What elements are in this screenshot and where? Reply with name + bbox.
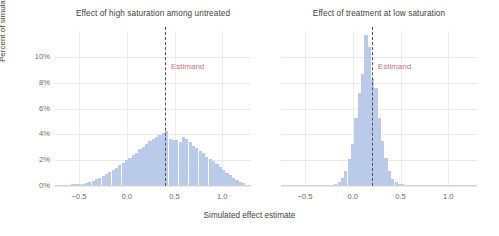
- histogram-bar: [401, 184, 404, 185]
- x-axis-line: [55, 185, 251, 186]
- x-tick-label: −0.5: [297, 192, 312, 201]
- gridline-horizontal: [281, 186, 477, 187]
- y-tick-label: 0%: [20, 181, 50, 190]
- histogram-bar: [242, 183, 245, 185]
- x-tick-label: 1.0: [217, 192, 228, 201]
- y-tick-label: 8%: [20, 78, 50, 87]
- plot-area-1: Estimand: [55, 31, 251, 186]
- estimand-label-1: Estimand: [171, 62, 204, 71]
- x-tick-label: 0.0: [347, 192, 358, 201]
- estimand-line-2: [372, 27, 373, 186]
- chart-root: Percent of simulations Simulated effect …: [0, 0, 499, 236]
- x-tick-label: 1.0: [443, 192, 454, 201]
- estimand-line-1: [165, 27, 166, 186]
- panel-title-1: Effect of high saturation among untreate…: [40, 9, 266, 18]
- estimand-label-2: Estimand: [378, 62, 411, 71]
- gridline-horizontal: [55, 186, 251, 187]
- histogram-bars-1: [55, 31, 251, 185]
- plot-area-2: Estimand: [281, 31, 477, 186]
- histogram-bars-2: [281, 31, 477, 185]
- y-tick-label: 6%: [20, 104, 50, 113]
- y-tick-label: 2%: [20, 155, 50, 164]
- x-tick-label: 0.5: [169, 192, 180, 201]
- x-axis-title: Simulated effect estimate: [0, 211, 499, 220]
- x-tick-label: −0.5: [71, 192, 86, 201]
- x-tick-label: 0.5: [395, 192, 406, 201]
- panel-title-2: Effect of treatment at low saturation: [266, 9, 492, 18]
- x-axis-line: [281, 185, 477, 186]
- y-axis-title: Percent of simulations: [0, 0, 7, 62]
- y-tick-label: 4%: [20, 129, 50, 138]
- x-tick-label: 0.0: [121, 192, 132, 201]
- y-tick-label: 10%: [20, 52, 50, 61]
